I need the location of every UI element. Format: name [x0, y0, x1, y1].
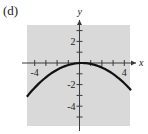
svg-text:-2: -2: [67, 79, 75, 90]
svg-text:-4: -4: [31, 67, 39, 78]
svg-text:-4: -4: [67, 101, 75, 112]
svg-text:2: 2: [71, 36, 76, 47]
y-axis-label: y: [77, 6, 83, 17]
x-axis-label: x: [138, 57, 144, 68]
svg-text:4: 4: [122, 67, 127, 78]
parabola-chart: 4-42-2-4 x y: [0, 0, 148, 134]
